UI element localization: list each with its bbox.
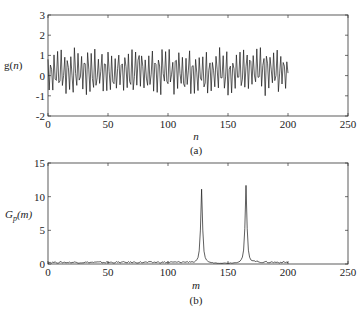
y-tick-label: 0 bbox=[40, 258, 46, 270]
y-tick-label: 1 bbox=[40, 49, 46, 61]
x-tick-label: 200 bbox=[280, 266, 297, 278]
panel-a-xlabel: n bbox=[193, 130, 199, 142]
x-tick-label: 50 bbox=[103, 118, 115, 130]
panel-b-caption: (b) bbox=[190, 294, 203, 307]
panel-a-ylabel: g(n) bbox=[4, 59, 23, 72]
figure: 050100150200250-2-10123 g(n) n (a) 05010… bbox=[0, 0, 364, 312]
panel-b-spectrum-line bbox=[48, 185, 288, 263]
x-tick-label: 250 bbox=[340, 266, 357, 278]
panel-a: 050100150200250-2-10123 g(n) n (a) bbox=[4, 9, 357, 157]
panel-b-axes-box bbox=[48, 163, 348, 264]
panel-b-ticks: 050100150200250051015 bbox=[34, 157, 357, 278]
x-tick-label: 100 bbox=[160, 118, 177, 130]
x-tick-label: 150 bbox=[220, 266, 237, 278]
x-tick-label: 0 bbox=[45, 118, 51, 130]
x-tick-label: 150 bbox=[220, 118, 237, 130]
panel-b: 050100150200250051015 Gp(m) m (b) bbox=[5, 157, 357, 307]
y-tick-label: 10 bbox=[34, 191, 46, 203]
panel-b-ylabel: Gp(m) bbox=[5, 208, 33, 223]
y-tick-label: 3 bbox=[40, 9, 46, 21]
x-tick-label: 200 bbox=[280, 118, 297, 130]
y-tick-label: -1 bbox=[36, 90, 45, 102]
y-tick-label: 5 bbox=[40, 224, 46, 236]
panel-a-axes-box bbox=[48, 15, 348, 116]
panel-a-signal-line bbox=[48, 48, 288, 96]
x-tick-label: 250 bbox=[340, 118, 357, 130]
y-tick-label: 0 bbox=[40, 70, 46, 82]
y-tick-label: 15 bbox=[34, 157, 46, 169]
panel-a-caption: (a) bbox=[190, 144, 203, 157]
x-tick-label: 100 bbox=[160, 266, 177, 278]
x-tick-label: 0 bbox=[45, 266, 51, 278]
x-tick-label: 50 bbox=[103, 266, 115, 278]
panel-b-xlabel: m bbox=[192, 279, 200, 291]
y-tick-label: -2 bbox=[36, 110, 45, 122]
y-tick-label: 2 bbox=[40, 29, 46, 41]
